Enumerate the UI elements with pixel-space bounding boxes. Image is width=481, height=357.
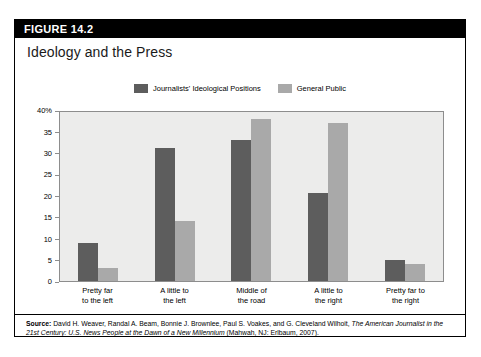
y-axis-tick-label: 35 (44, 129, 55, 137)
bar (308, 193, 328, 281)
figure-header-bar: FIGURE 14.2 (15, 20, 465, 38)
y-axis-tick-label: 10 (44, 236, 55, 244)
legend-swatch-icon (134, 84, 148, 93)
source-text-first: David H. Weaver, Randal A. Beam, Bonnie … (51, 320, 351, 327)
bar (251, 119, 271, 281)
y-axis-tick-label: 5 (48, 257, 55, 265)
source-divider (15, 314, 465, 315)
chart-legend: Journalists' Ideological PositionsGenera… (15, 84, 465, 93)
y-axis: 0510152025303540% (15, 111, 59, 282)
bar (98, 268, 118, 281)
bar-group (290, 112, 367, 281)
x-axis-label: Pretty far tothe right (367, 286, 444, 305)
x-axis-label: A little tothe left (136, 286, 213, 305)
x-axis-label: A little tothe right (290, 286, 367, 305)
bar-group (60, 112, 137, 281)
y-axis-tick-label: 15 (44, 214, 55, 222)
plot-area (59, 111, 444, 282)
y-axis-tick-label: 20 (44, 193, 55, 201)
bar-group (213, 112, 290, 281)
bar (385, 260, 405, 281)
legend-label: General Public (297, 84, 346, 93)
figure-container: FIGURE 14.2 Ideology and the Press Journ… (14, 19, 466, 337)
legend-entry: General Public (278, 84, 346, 93)
chart-title: Ideology and the Press (27, 44, 172, 60)
x-axis-labels: Pretty farto the leftA little tothe left… (59, 286, 444, 305)
y-axis-tick-label: 40% (37, 107, 55, 115)
y-axis-tick-label: 30 (44, 150, 55, 158)
bar (175, 221, 195, 281)
y-axis-tick-label: 25 (44, 171, 55, 179)
bar (328, 123, 348, 281)
bars-layer (60, 112, 443, 281)
figure-body: Ideology and the Press Journalists' Ideo… (15, 38, 465, 336)
figure-number-label: FIGURE 14.2 (24, 23, 93, 35)
x-axis-label: Middle ofthe road (213, 286, 290, 305)
bar-group (366, 112, 443, 281)
source-note: Source: David H. Weaver, Randal A. Beam,… (26, 319, 454, 338)
bar (231, 140, 251, 281)
legend-swatch-icon (278, 84, 292, 93)
bar (78, 243, 98, 281)
legend-entry: Journalists' Ideological Positions (134, 84, 261, 93)
bar-group (137, 112, 214, 281)
x-axis-label: Pretty farto the left (59, 286, 136, 305)
bar (155, 148, 175, 281)
legend-label: Journalists' Ideological Positions (153, 84, 261, 93)
bar (405, 264, 425, 281)
source-text-last: (Mahwah, NJ: Erlbaum, 2007). (225, 329, 319, 336)
y-axis-tick-label: 0 (48, 278, 55, 286)
source-prefix: Source: (26, 320, 51, 327)
